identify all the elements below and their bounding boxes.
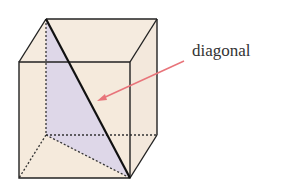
cuboid-figure	[0, 0, 287, 183]
diagram-root: diagonal	[0, 0, 287, 183]
diagonal-label: diagonal	[192, 41, 251, 61]
